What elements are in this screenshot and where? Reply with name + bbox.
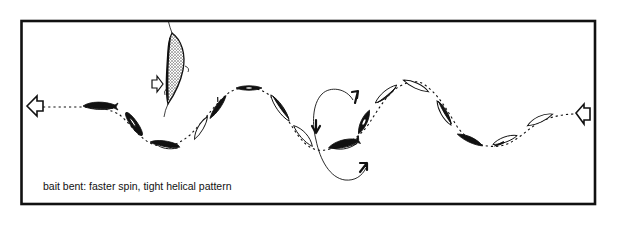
bait-fish-14	[456, 131, 484, 148]
rotation-arrow-top-icon	[352, 91, 358, 103]
small-pointer-arrow-icon	[152, 76, 163, 92]
bait-fish-7	[268, 93, 291, 123]
bait-fish-16	[526, 111, 554, 128]
bait-fish-4	[192, 115, 210, 140]
hooked-bait-fish	[164, 20, 189, 117]
bait-fish-13	[434, 99, 453, 126]
bait-fish-10	[356, 109, 372, 135]
figure-caption: bait bent: faster spin, tight helical pa…	[43, 180, 232, 192]
rotation-loop	[312, 89, 367, 180]
right-block-arrow-icon	[576, 104, 590, 124]
bait-fish-15	[492, 133, 518, 147]
diagram-frame	[22, 21, 596, 204]
rotation-arrow-bottom-icon	[360, 163, 367, 172]
bait-fish-9	[327, 136, 360, 153]
bait-fish-1	[83, 102, 118, 110]
spinning-bait-sequence	[83, 77, 554, 152]
bait-fish-5	[205, 92, 228, 120]
bait-fish-11	[373, 83, 398, 106]
bait-fish-3	[150, 139, 181, 150]
left-block-arrow-icon	[27, 96, 43, 116]
bait-fish-6	[236, 86, 262, 91]
bait-fish-2	[123, 111, 145, 138]
